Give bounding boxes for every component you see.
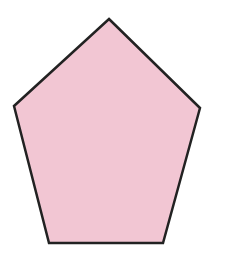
diagram-canvas xyxy=(0,0,225,268)
pentagon-figure xyxy=(0,0,225,268)
pentagon-shape xyxy=(14,19,200,243)
